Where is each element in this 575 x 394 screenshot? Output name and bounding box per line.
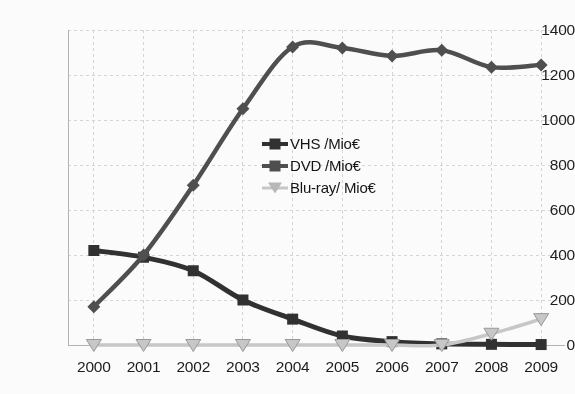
chart-legend: VHS /Mio€ DVD /Mio€ Blu-ray/ Mio€ (262, 134, 376, 197)
data-point-marker (485, 61, 498, 74)
y-axis-tick-label: 800 (517, 156, 575, 174)
legend-item-dvd: DVD /Mio€ (262, 156, 376, 175)
data-point-marker (88, 245, 99, 256)
x-axis-tick-label: 2001 (127, 358, 161, 376)
triangle-down-icon (262, 181, 288, 195)
y-axis-tick-label: 400 (517, 246, 575, 264)
square-icon (262, 137, 288, 151)
x-axis-tick-label: 2000 (77, 358, 111, 376)
y-axis-tick-label: 1200 (517, 66, 575, 84)
x-axis-tick-label: 2009 (524, 358, 558, 376)
data-point-marker (188, 265, 199, 276)
x-axis-tick-label: 2002 (176, 358, 210, 376)
x-axis-tick-label: 2006 (375, 358, 409, 376)
legend-item-bluray: Blu-ray/ Mio€ (262, 178, 376, 197)
data-point-marker (336, 42, 349, 55)
series-line (94, 251, 541, 345)
data-point-marker (386, 49, 399, 62)
legend-item-vhs: VHS /Mio€ (262, 134, 376, 153)
series-vhs (88, 245, 546, 350)
chart-plot-area (0, 0, 575, 394)
y-axis-tick-label: 600 (517, 201, 575, 219)
y-axis-tick-label: 200 (517, 291, 575, 309)
chart-container: 0200400600800100012001400 20002001200220… (0, 0, 575, 394)
legend-item-label: VHS /Mio€ (290, 135, 360, 152)
legend-item-label: DVD /Mio€ (290, 157, 361, 174)
x-axis-tick-label: 2008 (475, 358, 509, 376)
data-point-marker (435, 44, 448, 57)
y-axis-tick-label: 1000 (517, 111, 575, 129)
x-axis-tick-label: 2007 (425, 358, 459, 376)
y-axis-tick-label: 1400 (517, 21, 575, 39)
diamond-icon (262, 159, 288, 173)
data-point-marker (237, 295, 248, 306)
legend-item-label: Blu-ray/ Mio€ (290, 179, 376, 196)
x-axis-tick-label: 2005 (326, 358, 360, 376)
y-axis-tick-label: 0 (517, 336, 575, 354)
x-axis-tick-label: 2004 (276, 358, 310, 376)
x-axis-tick-label: 2003 (226, 358, 260, 376)
data-point-marker (287, 314, 298, 325)
